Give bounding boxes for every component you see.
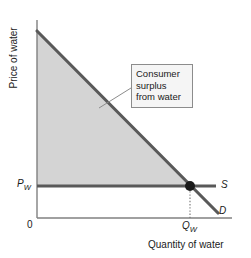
consumer-surplus-callout: Consumer surplus from water bbox=[131, 64, 193, 108]
consumer-surplus-figure: Price of water Quantity of water 0 PW QW… bbox=[0, 0, 251, 258]
quantity-subscript: W bbox=[190, 225, 197, 234]
demand-curve-label: D bbox=[219, 205, 226, 217]
y-axis-label: Price of water bbox=[8, 20, 20, 96]
equilibrium-point bbox=[185, 181, 195, 191]
origin-label: 0 bbox=[27, 219, 33, 231]
price-symbol: P bbox=[17, 178, 24, 189]
plot-svg bbox=[0, 0, 251, 258]
quantity-symbol: Q bbox=[182, 220, 190, 231]
supply-curve-label: S bbox=[221, 179, 228, 191]
price-axis-tick-label: PW bbox=[17, 178, 31, 193]
quantity-axis-tick-label: QW bbox=[182, 220, 197, 235]
x-axis-label: Quantity of water bbox=[148, 239, 224, 251]
price-subscript: W bbox=[24, 183, 31, 192]
